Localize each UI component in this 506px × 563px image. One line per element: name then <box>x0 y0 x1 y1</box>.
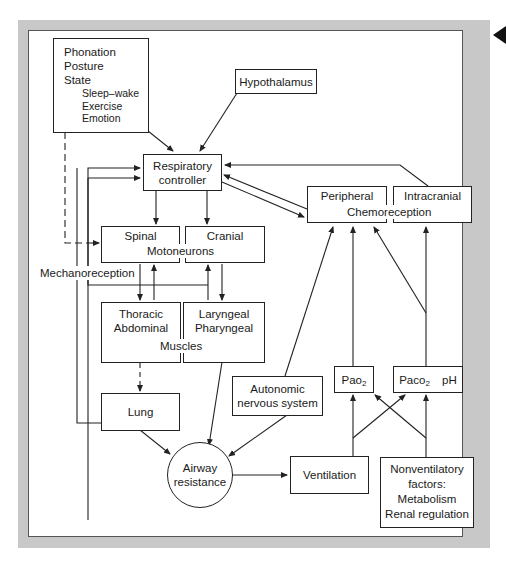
cranial-label: Cranial <box>207 230 243 242</box>
influences-box: Phonation Posture State Sleep–wake Exerc… <box>53 38 149 133</box>
state-sleep-wake: Sleep–wake <box>64 87 148 100</box>
thoracic-label: Thoracic <box>102 307 180 321</box>
nonventilatory-factors-box: Nonventilatory factors: Metabolism Renal… <box>380 457 474 528</box>
airway-label: Airway <box>168 461 232 475</box>
lung-box: Lung <box>101 393 180 431</box>
nonventilatory-line2: factors: <box>381 477 473 492</box>
pao2-base: Pao <box>342 374 362 386</box>
pao2-subscript: 2 <box>362 379 366 388</box>
airway-resistance-node: Airway resistance <box>167 442 233 508</box>
state-emotion: Emotion <box>64 112 148 125</box>
nonventilatory-line1: Nonventilatory <box>381 462 473 477</box>
influence-phonation: Phonation <box>64 45 148 59</box>
intracranial-label: Intracranial <box>404 190 461 202</box>
state-exercise: Exercise <box>64 100 148 113</box>
autonomic-label: Autonomic <box>233 382 322 396</box>
pao2-box: Pao2 <box>334 366 374 393</box>
ventilation-box: Ventilation <box>290 456 369 494</box>
resistance-label: resistance <box>168 475 232 489</box>
respiratory-controller-box: Respiratory controller <box>143 154 222 191</box>
chemoreception-group-label: Chemoreception <box>346 205 432 219</box>
ventilation-label: Ventilation <box>303 469 356 481</box>
peripheral-label: Peripheral <box>321 190 373 202</box>
laryngeal-pharyngeal-muscles-box: Laryngeal Pharyngeal <box>183 302 265 363</box>
mechanoreception-label: Mechanoreception <box>40 266 135 280</box>
hypothalamus-label: Hypothalamus <box>239 76 313 88</box>
paco2-ph-box: Paco2 pH <box>393 366 463 393</box>
nonventilatory-renal: Renal regulation <box>381 507 473 522</box>
ph-label: pH <box>442 374 457 386</box>
motoneurons-group-label: Motoneurons <box>146 244 215 258</box>
influence-state: State <box>64 73 148 87</box>
respiratory-controller-line1: Respiratory <box>144 159 221 173</box>
respiratory-controller-line2: controller <box>144 173 221 187</box>
lung-label: Lung <box>128 406 154 418</box>
laryngeal-label: Laryngeal <box>184 307 264 321</box>
nonventilatory-metabolism: Metabolism <box>381 492 473 507</box>
spinal-label: Spinal <box>125 230 157 242</box>
paco2-subscript: 2 <box>425 379 429 388</box>
thoracic-abdominal-muscles-box: Thoracic Abdominal <box>101 302 181 363</box>
pharyngeal-label: Pharyngeal <box>184 321 264 335</box>
paco2-base: Paco <box>399 374 425 386</box>
hypothalamus-box: Hypothalamus <box>235 69 317 94</box>
muscles-group-label: Muscles <box>159 339 203 353</box>
autonomic-nervous-system-box: Autonomic nervous system <box>232 376 323 416</box>
influence-posture: Posture <box>64 59 148 73</box>
abdominal-label: Abdominal <box>102 321 180 335</box>
nervous-system-label: nervous system <box>233 396 322 410</box>
